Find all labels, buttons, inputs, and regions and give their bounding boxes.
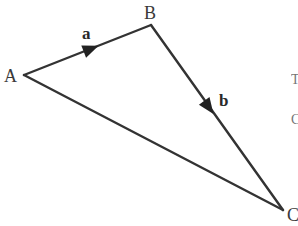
vector-triangle-diagram: A B C a b T C (0, 0, 298, 226)
clipped-text-2: C (291, 112, 298, 127)
vector-label-a: a (82, 24, 91, 43)
point-label-b: B (144, 3, 156, 23)
edge-b-c (151, 25, 283, 210)
clipped-text-1: T (291, 72, 298, 87)
point-label-c: C (287, 205, 298, 225)
vector-label-b: b (219, 91, 228, 110)
point-label-a: A (4, 66, 17, 86)
edge-a-c (24, 75, 283, 210)
